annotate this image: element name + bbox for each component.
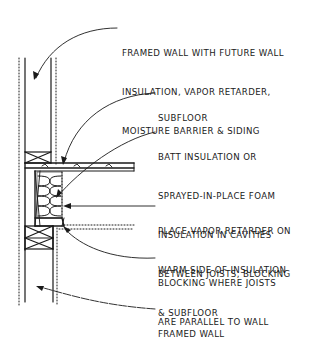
upper-blocking [25, 152, 51, 163]
subfloor [25, 163, 134, 171]
callout-framed-wall: FRAMED WALL [158, 302, 225, 341]
ceiling-finish [59, 225, 134, 229]
lower-blocking [25, 226, 53, 249]
